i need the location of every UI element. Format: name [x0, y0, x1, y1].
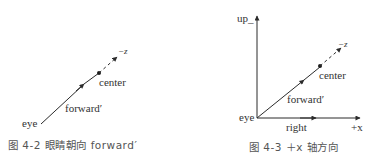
forward-label: forward′	[65, 103, 102, 114]
figure-caption-4-2: 图 4-2 眼睛朝向 forward′	[8, 139, 137, 151]
neg-z-label: −z	[338, 39, 348, 50]
eye-label: eye	[239, 112, 254, 123]
eye-label: eye	[22, 118, 37, 129]
center-label: center	[99, 77, 126, 88]
center-label: center	[319, 70, 346, 81]
up-label: up_	[237, 13, 254, 24]
neg-z-label: −z	[118, 46, 128, 57]
neg-z-dashed-line	[320, 48, 341, 66]
figure-caption-4-3: 图 4-3 ＋x 轴方向	[249, 141, 338, 153]
right-label: right	[286, 122, 307, 133]
center-solid-segment	[304, 67, 320, 80]
center-solid-segment	[84, 73, 99, 84]
neg-z-dashed-line	[99, 57, 117, 73]
forward-arrowhead	[76, 84, 84, 91]
pos-x-label: +x	[351, 122, 363, 133]
forward-label: forward′	[287, 94, 324, 105]
